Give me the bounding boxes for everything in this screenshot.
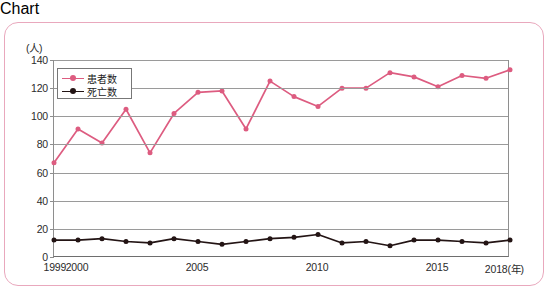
x-axis-tick-label: 1999 [44, 261, 67, 273]
data-point [292, 235, 297, 240]
y-axis-tick-label: 120 [6, 82, 48, 94]
data-point [76, 126, 81, 131]
data-point [316, 232, 321, 237]
y-axis-tick-label: 40 [6, 195, 48, 207]
data-point [172, 111, 177, 116]
data-point [340, 240, 345, 245]
y-axis-tick-mark [50, 116, 54, 117]
x-axis-tick-label: 2018(年) [485, 261, 524, 276]
gridline [54, 201, 508, 202]
data-point [196, 239, 201, 244]
data-point [412, 74, 417, 79]
data-point [148, 240, 153, 245]
y-axis-tick-label: 140 [6, 54, 48, 66]
gridline [54, 60, 508, 61]
x-axis-tick-label: 2015 [426, 261, 449, 273]
y-axis-tick-label: 80 [6, 138, 48, 150]
data-point [484, 76, 489, 81]
data-point [124, 239, 129, 244]
data-point [148, 150, 153, 155]
data-point [220, 242, 225, 247]
data-point [460, 239, 465, 244]
series-line-死亡数 [54, 234, 510, 245]
data-point [484, 240, 489, 245]
y-axis-tick-label: 60 [6, 167, 48, 179]
data-point [508, 238, 513, 243]
y-axis-tick-mark [50, 88, 54, 89]
gridline [54, 173, 508, 174]
gridline [54, 116, 508, 117]
legend-item-patients: 患者数 [62, 72, 127, 84]
chart-legend: 患者数 死亡数 [57, 68, 132, 99]
data-point [316, 104, 321, 109]
data-point [268, 79, 273, 84]
y-axis-tick-mark [50, 60, 54, 61]
data-point [52, 160, 57, 165]
data-point [196, 90, 201, 95]
data-point [388, 243, 393, 248]
data-point [436, 238, 441, 243]
data-point [388, 70, 393, 75]
x-axis-tick-labels: 199920002005201020152018(年) [0, 261, 552, 281]
gridline [54, 229, 508, 230]
y-axis-tick-mark [50, 257, 54, 258]
y-axis-tick-labels: 020406080100120140 [4, 60, 48, 257]
chart-figure: (人) 020406080100120140 19992000200520102… [0, 18, 552, 290]
data-point [124, 107, 129, 112]
y-axis-tick-mark [50, 144, 54, 145]
data-point [220, 88, 225, 93]
legend-swatch-deaths-icon [62, 86, 84, 96]
y-axis-tick-mark [50, 173, 54, 174]
data-point [52, 238, 57, 243]
y-axis-tick-mark [50, 201, 54, 202]
data-point [412, 238, 417, 243]
legend-label-deaths: 死亡数 [87, 84, 116, 99]
data-point [268, 236, 273, 241]
legend-item-deaths: 死亡数 [62, 85, 127, 97]
data-point [460, 73, 465, 78]
gridline [54, 144, 508, 145]
data-point [364, 239, 369, 244]
x-axis-tick-label: 2010 [306, 261, 329, 273]
data-point [292, 94, 297, 99]
x-axis-tick-label: 2005 [186, 261, 209, 273]
data-point [76, 238, 81, 243]
x-axis-tick-label: 2000 [66, 261, 89, 273]
data-point [508, 67, 513, 72]
y-axis-tick-mark [50, 229, 54, 230]
y-axis-tick-label: 100 [6, 110, 48, 122]
legend-swatch-patients-icon [62, 73, 84, 83]
data-point [100, 236, 105, 241]
y-axis-unit-label: (人) [26, 40, 42, 55]
data-point [244, 126, 249, 131]
data-point [172, 236, 177, 241]
data-point [244, 239, 249, 244]
y-axis-tick-label: 20 [6, 223, 48, 235]
